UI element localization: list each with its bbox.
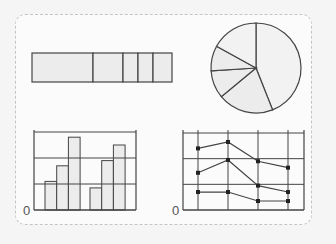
bar-chart-origin-label: 0 [23, 204, 30, 217]
strip-segment [138, 53, 153, 82]
strip-segment [32, 53, 93, 82]
bar [90, 188, 102, 210]
data-point-marker [286, 166, 290, 170]
data-point-marker [196, 171, 200, 175]
data-point-marker [226, 158, 230, 162]
bar [45, 181, 57, 210]
strip-segment [153, 53, 172, 82]
bar [57, 166, 69, 210]
bar [68, 137, 80, 210]
line-chart-origin-label: 0 [172, 204, 179, 217]
data-point-marker [196, 146, 200, 150]
bar [113, 145, 125, 210]
data-point-marker [256, 199, 260, 203]
data-point-marker [256, 159, 260, 163]
line-series [198, 142, 288, 168]
data-point-marker [226, 140, 230, 144]
line-series [198, 192, 288, 201]
chart-canvas [0, 0, 336, 244]
data-point-marker [286, 199, 290, 203]
data-point-marker [256, 184, 260, 188]
strip-segment [123, 53, 138, 82]
strip-segment [93, 53, 123, 82]
data-point-marker [196, 190, 200, 194]
data-point-marker [226, 190, 230, 194]
data-point-marker [286, 190, 290, 194]
bar [102, 161, 114, 210]
